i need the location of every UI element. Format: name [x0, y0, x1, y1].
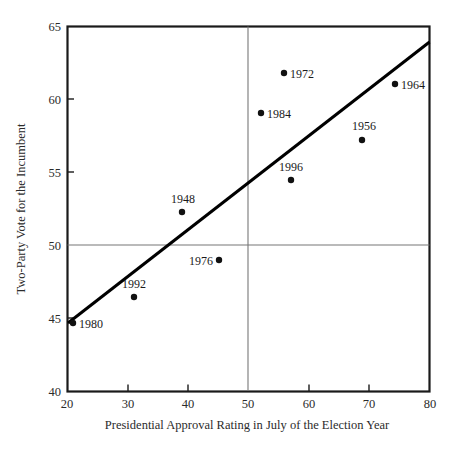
x-tick-label-50: 50	[242, 397, 255, 411]
data-label-1976: 1976	[189, 254, 213, 268]
data-point-1972[interactable]	[281, 70, 287, 76]
data-point-1976[interactable]	[216, 257, 222, 263]
y-axis-title: Two-Party Vote for the Incumbent	[14, 123, 28, 294]
x-tick-label-30: 30	[122, 397, 135, 411]
data-label-1972: 1972	[290, 67, 314, 81]
y-axis-tick-labels: 65 60 55 50 45 40	[49, 20, 62, 399]
y-tick-label-40: 40	[49, 385, 62, 399]
chart-canvas: 65 60 55 50 45 40 20 30 40 50 60 70 80	[0, 0, 457, 453]
x-tick-label-40: 40	[182, 397, 195, 411]
y-tick-label-55: 55	[49, 166, 62, 180]
data-label-1984: 1984	[267, 107, 291, 121]
data-label-1992: 1992	[122, 277, 146, 291]
data-point-1956[interactable]	[359, 137, 365, 143]
data-label-1956: 1956	[352, 119, 376, 133]
x-tick-label-70: 70	[363, 397, 376, 411]
y-tick-label-45: 45	[49, 312, 62, 326]
data-label-1948: 1948	[171, 192, 195, 206]
x-tick-label-80: 80	[424, 397, 437, 411]
data-point-1996[interactable]	[288, 177, 294, 183]
data-point-1964[interactable]	[392, 81, 398, 87]
data-label-1980: 1980	[79, 317, 103, 331]
data-point-1980[interactable]	[70, 320, 76, 326]
data-point-1948[interactable]	[179, 209, 185, 215]
x-tick-label-20: 20	[61, 397, 74, 411]
data-point-1992[interactable]	[131, 294, 137, 300]
data-point-1984[interactable]	[258, 110, 264, 116]
x-axis-title: Presidential Approval Rating in July of …	[105, 418, 390, 432]
data-label-1996: 1996	[279, 160, 303, 174]
x-tick-label-60: 60	[303, 397, 316, 411]
y-tick-label-50: 50	[49, 239, 62, 253]
data-label-1964: 1964	[401, 78, 425, 92]
scatter-chart-figure: 65 60 55 50 45 40 20 30 40 50 60 70 80	[0, 0, 457, 453]
y-tick-label-60: 60	[49, 93, 62, 107]
x-axis-tick-labels: 20 30 40 50 60 70 80	[61, 397, 437, 411]
y-tick-label-65: 65	[49, 20, 62, 34]
